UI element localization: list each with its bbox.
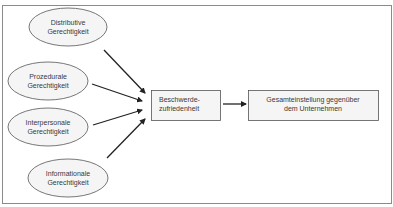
node-label-line1: Distributive xyxy=(51,19,86,26)
node-label-line1: Beschwerde- xyxy=(159,96,201,103)
node-procedural-justice: Prozedurale Gerechtigkeit xyxy=(8,62,88,100)
node-label-line2: zufriedenheit xyxy=(159,105,199,112)
node-informational-justice: Informationale Gerechtigkeit xyxy=(28,159,108,197)
node-label-line1: Informationale xyxy=(46,170,90,177)
node-interpersonal-justice: Interpersonale Gerechtigkeit xyxy=(8,108,88,146)
node-overall-attitude: Gesamteinstellung gegenüber dem Unterneh… xyxy=(249,91,379,121)
justice-satisfaction-diagram: Distributive Gerechtigkeit Prozedurale G… xyxy=(0,0,393,207)
node-label-line2: Gerechtigkeit xyxy=(47,179,88,187)
node-label-line2: Gerechtigkeit xyxy=(47,28,88,36)
node-distributive-justice: Distributive Gerechtigkeit xyxy=(29,8,107,46)
node-label-line1: Prozedurale xyxy=(29,73,67,80)
node-label-line1: Interpersonale xyxy=(26,119,71,127)
node-label-line2: dem Unternehmen xyxy=(284,105,342,112)
node-label-line2: Gerechtigkeit xyxy=(27,82,68,90)
node-label-line1: Gesamteinstellung gegenüber xyxy=(266,96,360,104)
node-complaint-satisfaction: Beschwerde- zufriedenheit xyxy=(152,91,221,121)
node-label-line2: Gerechtigkeit xyxy=(27,128,68,136)
